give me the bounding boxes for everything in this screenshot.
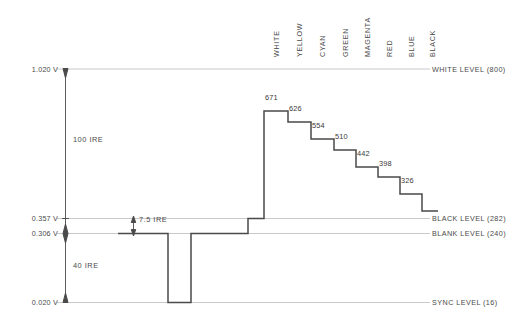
step-value-yellow: 626 <box>289 104 302 113</box>
reference-line-group <box>57 69 430 303</box>
arrow-blank-up-icon <box>63 224 68 234</box>
bar-label-cyan: CYAN <box>318 35 327 57</box>
arrow-sync-up-icon <box>63 293 68 303</box>
ire-label-7p5: 7.5 IRE <box>139 215 167 224</box>
level-label-blank: BLANK LEVEL (240) <box>432 229 506 238</box>
level-label-black: BLACK LEVEL (282) <box>432 214 506 223</box>
step-value-white: 671 <box>265 93 278 102</box>
bar-label-magenta: MAGENTA <box>363 17 372 57</box>
step-value-green: 510 <box>335 132 348 141</box>
ire-label-100: 100 IRE <box>73 135 103 144</box>
ire-7p5-arrow-up-icon <box>131 216 135 223</box>
step-value-red: 398 <box>379 159 392 168</box>
bar-label-yellow: YELLOW <box>295 23 304 57</box>
level-label-white: WHITE LEVEL (800) <box>432 65 506 74</box>
bar-label-green: GREEN <box>341 28 350 57</box>
waveform-diagram <box>0 0 517 321</box>
voltage-label-black: 0.357 V <box>10 214 58 223</box>
step-value-cyan: 554 <box>312 121 325 130</box>
voltage-label-blank: 0.306 V <box>10 229 58 238</box>
step-value-magenta: 442 <box>357 149 370 158</box>
ire-axis-group <box>62 69 69 303</box>
bar-label-black: BLACK <box>428 30 437 57</box>
bar-label-white: WHITE <box>272 30 281 57</box>
step-value-blue: 326 <box>401 176 414 185</box>
voltage-label-sync: 0.020 V <box>10 298 58 307</box>
level-label-sync: SYNC LEVEL (16) <box>432 298 498 307</box>
bar-label-blue: BLUE <box>407 35 416 57</box>
arrow-blank-down-icon <box>63 234 68 244</box>
bar-label-red: RED <box>385 40 394 57</box>
voltage-label-white: 1.020 V <box>10 65 58 74</box>
ire-label-40: 40 IRE <box>73 261 99 270</box>
arrow-white-down-icon <box>63 69 68 79</box>
waveform-trace <box>118 111 438 303</box>
